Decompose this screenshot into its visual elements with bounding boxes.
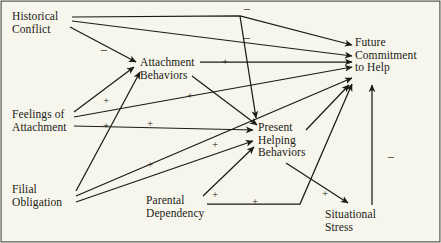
path-diagram-figure: HistoricalConflict Feelings ofAttachment… — [0, 0, 441, 243]
sign-ab-to-fc: + — [222, 56, 228, 67]
node-situational-stress: SituationalStress — [325, 208, 376, 233]
edge-parental-dependency-to-present-helping — [203, 147, 254, 196]
sign-ss-to-fc: − — [387, 152, 394, 163]
edge-feelings-attachment-to-present-helping — [74, 126, 253, 130]
sign-fo-to-ph: + — [212, 139, 218, 150]
node-attachment-behaviors: AttachmentBehaviors — [140, 56, 195, 81]
sign-fo-to-ab: + — [103, 120, 109, 131]
node-present-helping-behaviors: PresentHelpingBehaviors — [258, 121, 306, 159]
node-future-commitment-to-help: FutureCommitmentto Help — [355, 36, 417, 74]
sign-fa-to-ab: + — [103, 95, 109, 106]
sign-ph-to-ss: + — [322, 188, 328, 199]
edge-attachment-behaviors-to-present-helping — [192, 76, 257, 125]
edge-filial-obligation-to-present-helping — [76, 141, 253, 202]
edge-present-helping-to-future-commitment — [306, 85, 349, 130]
sign-fa-to-ph: + — [147, 118, 153, 129]
sign-pd-to-ph: + — [212, 189, 218, 200]
sign-hc-to-ab: − — [100, 45, 107, 56]
sign-pd-to-fc: + — [252, 196, 258, 207]
node-parental-dependency: ParentalDependency — [146, 194, 204, 219]
node-historical-conflict: HistoricalConflict — [12, 10, 58, 35]
sign-fa-to-fc: + — [187, 90, 193, 101]
node-filial-obligation: FilialObligation — [12, 183, 62, 208]
edge-present-helping-to-situational-stress — [286, 163, 348, 203]
edge-historical-conflict-to-future-commitment — [72, 16, 352, 45]
sign-fo-to-fc: + — [147, 159, 153, 170]
sign-hc-to-ph: − — [243, 33, 250, 44]
node-feelings-of-attachment: Feelings ofAttachment — [12, 108, 67, 133]
sign-hc-to-fc: − — [243, 4, 250, 15]
